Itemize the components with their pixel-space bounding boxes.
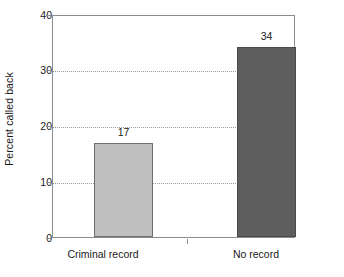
- bar-criminal-record: [94, 143, 153, 237]
- bar-value-no-record: 34: [237, 30, 296, 42]
- y-tick-mark-40: [46, 15, 51, 16]
- y-axis-title-text: Percent called back: [3, 72, 15, 166]
- plot-area: 17 34: [52, 15, 295, 238]
- y-tick-mark-0: [46, 238, 51, 239]
- y-tick-mark-20: [46, 126, 51, 127]
- y-axis-ticks: 40 30 20 10 0: [20, 0, 52, 277]
- bar-no-record: [237, 47, 296, 237]
- x-tick-label-criminal-record: Criminal record: [63, 248, 143, 260]
- bar-value-criminal-record: 17: [94, 126, 153, 138]
- y-tick-mark-30: [46, 70, 51, 71]
- y-tick-mark-10: [46, 182, 51, 183]
- x-tick-label-no-record: No record: [216, 248, 296, 260]
- y-axis-title: Percent called back: [0, 0, 18, 238]
- bar-chart-figure: Percent called back 40 30 20 10 0 17 34 …: [0, 0, 344, 277]
- x-tick-mark-center: [187, 239, 188, 244]
